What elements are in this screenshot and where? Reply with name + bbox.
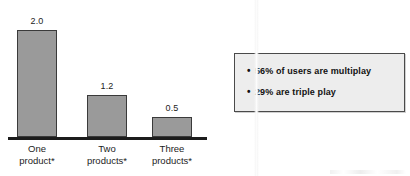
category-label-line-2: products*	[72, 155, 142, 167]
category-label-two-products: Two products*	[72, 143, 142, 167]
bar-chart: 2.0 One product* 1.2 Two products* 0.5 T…	[0, 0, 225, 176]
callout-item-text: 29% are triple play	[255, 86, 336, 98]
bar-two-products[interactable]	[87, 95, 127, 137]
bullet-icon: •	[247, 86, 255, 97]
callout-item-text: 56% of users are multiplay	[255, 65, 371, 77]
bar-one-product[interactable]	[17, 30, 57, 137]
callout-list: • 56% of users are multiplay • 29% are t…	[235, 54, 404, 98]
category-label-line-2: product*	[2, 155, 72, 167]
category-label-one-product: One product*	[2, 143, 72, 167]
category-label-line-1: Two	[72, 143, 142, 155]
category-label-line-1: Three	[137, 143, 207, 155]
category-label-three-products: Three products*	[137, 143, 207, 167]
bullet-icon: •	[247, 65, 255, 76]
category-label-line-2: products*	[137, 155, 207, 167]
callout-box: • 56% of users are multiplay • 29% are t…	[234, 53, 405, 112]
bar-value-label-2: 1.2	[87, 81, 127, 91]
callout-list-item: • 29% are triple play	[247, 86, 404, 98]
slide-figure: 2.0 One product* 1.2 Two products* 0.5 T…	[0, 0, 410, 176]
category-label-line-1: One	[2, 143, 72, 155]
bar-value-label-3: 0.5	[152, 103, 192, 113]
bar-value-label-1: 2.0	[17, 16, 57, 26]
callout-list-item: • 56% of users are multiplay	[247, 65, 404, 77]
x-axis-line	[8, 137, 207, 140]
scan-artifact-noise	[330, 170, 406, 174]
bar-three-products[interactable]	[152, 117, 192, 137]
